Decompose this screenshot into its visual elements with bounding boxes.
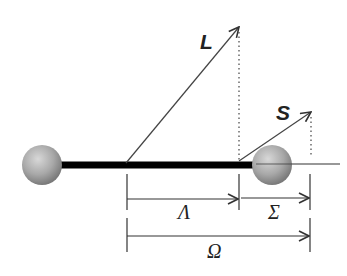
diatomic-molecule-diagram: L S Λ Σ Ω	[0, 0, 347, 276]
sigma-label: Σ	[267, 201, 280, 223]
lambda-label: Λ	[176, 201, 190, 223]
vector-L-arrow	[126, 27, 239, 163]
omega-label: Ω	[207, 240, 221, 262]
vector-L-label: L	[200, 30, 213, 53]
left-atom	[22, 145, 62, 185]
vector-S-label: S	[276, 101, 290, 124]
right-atom	[252, 145, 292, 185]
